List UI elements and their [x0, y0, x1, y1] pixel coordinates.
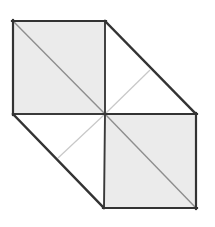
vertical-bottom-middle-edge-line: [104, 114, 105, 208]
cube-wireframe-svg: [0, 0, 215, 227]
figure-canvas: [0, 0, 215, 227]
